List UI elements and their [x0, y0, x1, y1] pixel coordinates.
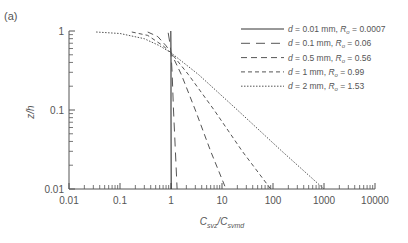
y-tick-label: 0.01	[45, 184, 65, 195]
panel-label: (a)	[4, 10, 17, 22]
legend: d = 0.01 mm, Ro = 0.0007d = 0.1 mm, Ro =…	[241, 24, 386, 92]
x-tick-label: 0.1	[113, 195, 127, 206]
legend-label-3: d = 1 mm, Ro = 0.99	[288, 67, 364, 78]
legend-label-1: d = 0.1 mm, Ro = 0.06	[288, 38, 371, 49]
chart-figure: (a) 0.010.1110100100010000 10.10.01 z/h …	[0, 0, 408, 243]
x-axis-title: Csvz/Csvmd	[200, 216, 246, 229]
y-tick-label: 0.1	[50, 105, 64, 116]
series-line-3	[132, 32, 271, 189]
x-tick-label: 10000	[361, 195, 389, 206]
y-tick-label: 1	[58, 26, 64, 37]
x-tick-label: 100	[265, 195, 282, 206]
x-ticks: 0.010.1110100100010000	[59, 183, 389, 206]
legend-label-2: d = 0.5 mm, Ro = 0.56	[288, 53, 371, 64]
x-tick-label: 0.01	[59, 195, 79, 206]
x-tick-label: 1	[168, 195, 174, 206]
y-axis-title: z/h	[25, 105, 36, 120]
x-tick-label: 1000	[313, 195, 336, 206]
legend-label-0: d = 0.01 mm, Ro = 0.0007	[288, 24, 386, 35]
series-line-2	[148, 32, 226, 189]
y-ticks: 10.10.01	[45, 26, 75, 195]
x-tick-label: 10	[216, 195, 228, 206]
legend-label-4: d = 2 mm, Ro = 1.53	[288, 81, 364, 92]
